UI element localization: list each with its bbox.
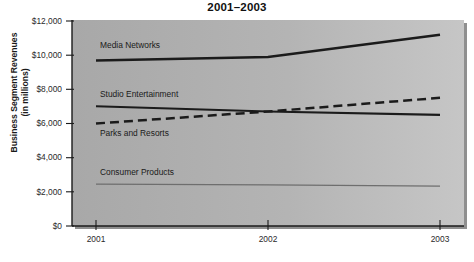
plot-background xyxy=(72,20,464,226)
y-tick-label-12000: $12,000 xyxy=(16,16,62,26)
revenue-line-chart: 2001–2003 Business Segment Revenues (in … xyxy=(0,0,474,262)
series-label-parks-and-resorts: Parks and Resorts xyxy=(100,128,169,138)
y-tick-label-10000: $10,000 xyxy=(16,50,62,60)
y-tick-label-8000: $8,000 xyxy=(16,84,62,94)
x-tick-label-2003: 2003 xyxy=(420,234,460,244)
series-label-consumer-products: Consumer Products xyxy=(100,167,174,177)
y-tick-label-0: $0 xyxy=(16,221,62,231)
x-tick-label-2002: 2002 xyxy=(248,234,288,244)
y-tick-label-2000: $2,000 xyxy=(16,187,62,197)
series-label-media-networks: Media Networks xyxy=(100,40,160,50)
y-tick-label-6000: $6,000 xyxy=(16,118,62,128)
series-label-studio-entertainment: Studio Entertainment xyxy=(100,89,178,99)
x-tick-label-2001: 2001 xyxy=(76,234,116,244)
plot-area xyxy=(0,0,474,262)
y-tick-label-4000: $4,000 xyxy=(16,152,62,162)
